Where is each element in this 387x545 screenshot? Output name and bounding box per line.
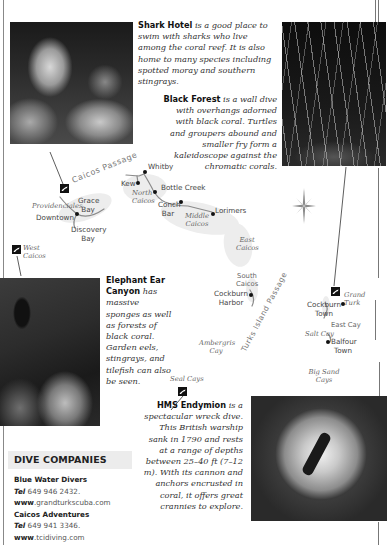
middle-caicos-label: Middle Caicos	[185, 212, 209, 228]
downtown-label: Downtown	[36, 214, 74, 223]
bottle-creek-label: Bottle Creek	[161, 184, 206, 193]
grace-bay-label: Grace Bay	[78, 197, 98, 214]
cockburn-harbor-dot	[249, 293, 253, 297]
west-caicos-label: West Caicos	[23, 244, 45, 260]
diver-flag-icon	[178, 387, 187, 396]
company-website-link[interactable]: www.grandturkscuba.com	[14, 497, 111, 509]
kew-dot	[136, 181, 140, 185]
dive-site-marker-hms-endymion[interactable]	[178, 387, 187, 396]
cockburn-town-dot	[341, 302, 345, 306]
downtown-dot	[75, 212, 79, 216]
balfour-town-dot	[326, 340, 330, 344]
compass-rose-icon	[292, 188, 316, 224]
lorimers-label: Lorimers	[215, 207, 246, 216]
seal-cays-label: Seal Cays	[170, 375, 204, 383]
whitby-label: Whitby	[148, 163, 173, 172]
company-name: Blue Water Divers	[14, 474, 111, 486]
big-sand-cays-label: Big Sand Cays	[307, 368, 341, 384]
company-name: Caicos Adventures	[14, 509, 111, 521]
cockburn-harbor-label: Cockburn Harbor	[213, 290, 249, 307]
cockburn-town-label: Cockburn Town	[306, 301, 342, 318]
providenciales-label: Providenciales	[32, 202, 82, 210]
dive-site-marker-shark-hotel[interactable]	[60, 184, 69, 193]
balfour-town-label: Balfour Town	[331, 338, 355, 355]
company-tel: Tel 649 941 3346.	[14, 520, 111, 532]
conch-bar-dot	[179, 200, 183, 204]
conch-bar-label: Conch Bar	[158, 201, 178, 218]
diver-flag-icon	[331, 287, 340, 296]
whitby-dot	[143, 170, 147, 174]
diver-flag-icon	[60, 184, 69, 193]
dive-site-marker-elephant-ear-canyon[interactable]	[12, 245, 21, 254]
east-caicos-label: East Caicos	[236, 236, 258, 252]
lorimers-dot	[211, 212, 215, 216]
dive-site-marker-black-forest[interactable]	[331, 287, 340, 296]
diver-flag-icon	[12, 245, 21, 254]
dive-companies-heading: DIVE COMPANIES	[8, 451, 132, 469]
bottle-creek-dot	[153, 190, 157, 194]
ambergris-cay-label: Ambergris Cay	[199, 339, 233, 355]
dive-companies-list: Blue Water Divers Tel 649 946 2432. www.…	[14, 474, 111, 544]
grand-turk-label: Grand Turk	[344, 291, 366, 307]
company-tel: Tel 649 946 2432.	[14, 486, 111, 498]
south-caicos-label: South Caicos	[236, 272, 258, 288]
salt-cay-label: Salt Cay	[305, 330, 334, 338]
discovery-bay-label: Discovery Bay	[71, 226, 105, 243]
east-cay-label: East Cay	[331, 321, 361, 329]
company-website-link[interactable]: www.tcidiving.com	[14, 532, 111, 544]
north-caicos-label: North Caicos	[132, 189, 152, 205]
kew-label: Kew	[121, 180, 136, 189]
